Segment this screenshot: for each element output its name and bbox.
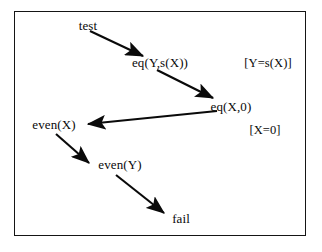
node-even_y: even(Y) (98, 158, 141, 171)
node-fail: fail (172, 212, 190, 225)
node-eq_x_0: eq(X,0) (211, 100, 252, 113)
annotation-subst_x: [X=0] (249, 124, 280, 137)
node-test: test (79, 19, 97, 32)
diagram-canvas: testeq(Y,s(X))eq(X,0)even(X)even(Y)fail … (0, 0, 322, 252)
annotation-subst_y: [Y=s(X)] (244, 57, 291, 70)
node-even_x: even(X) (32, 118, 75, 131)
node-eq_y_sx: eq(Y,s(X)) (132, 56, 188, 69)
